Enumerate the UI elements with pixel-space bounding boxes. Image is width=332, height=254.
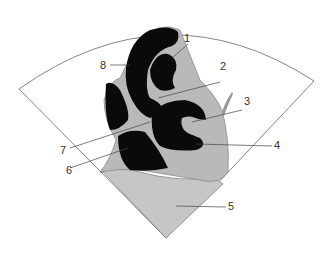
label-8: 8 — [100, 60, 106, 71]
label-3: 3 — [244, 96, 250, 107]
diagram-canvas: 1 2 3 4 5 6 7 8 — [0, 0, 332, 254]
heart-sector-diagram — [0, 0, 332, 254]
label-2: 2 — [220, 61, 226, 72]
label-7: 7 — [60, 145, 66, 156]
label-1: 1 — [184, 33, 190, 44]
label-4: 4 — [274, 140, 280, 151]
label-5: 5 — [228, 201, 234, 212]
label-6: 6 — [66, 165, 72, 176]
